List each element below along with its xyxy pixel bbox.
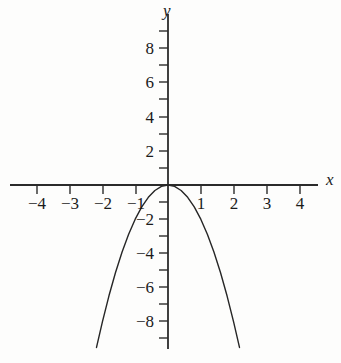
y-tick-label-2: 2: [128, 143, 154, 160]
x-tick-label-4: 4: [296, 195, 305, 212]
y-axis-group: [159, 14, 168, 349]
y-tick-label-4: 4: [128, 109, 154, 126]
x-tick-label--3: −3: [61, 195, 79, 212]
graph-figure: −4 −3 −2 −1 1 2 3 4 8 6 4 2 −2 −4 −6 −8 …: [0, 0, 341, 363]
x-tick-label-3: 3: [263, 195, 272, 212]
y-tick-label--4: −4: [118, 245, 154, 262]
x-tick-label-2: 2: [230, 195, 239, 212]
x-axis-label: x: [326, 171, 334, 188]
x-tick-label-1: 1: [197, 195, 206, 212]
y-tick-label-8: 8: [128, 40, 154, 57]
y-tick-label--8: −8: [118, 313, 154, 330]
y-tick-label--2: −2: [118, 211, 154, 228]
x-tick-label--4: −4: [28, 195, 46, 212]
y-tick-label-6: 6: [128, 74, 154, 91]
coordinate-plane: [0, 0, 341, 363]
y-axis-label: y: [163, 2, 171, 19]
y-tick-label--6: −6: [118, 279, 154, 296]
x-tick-label--2: −2: [94, 195, 112, 212]
